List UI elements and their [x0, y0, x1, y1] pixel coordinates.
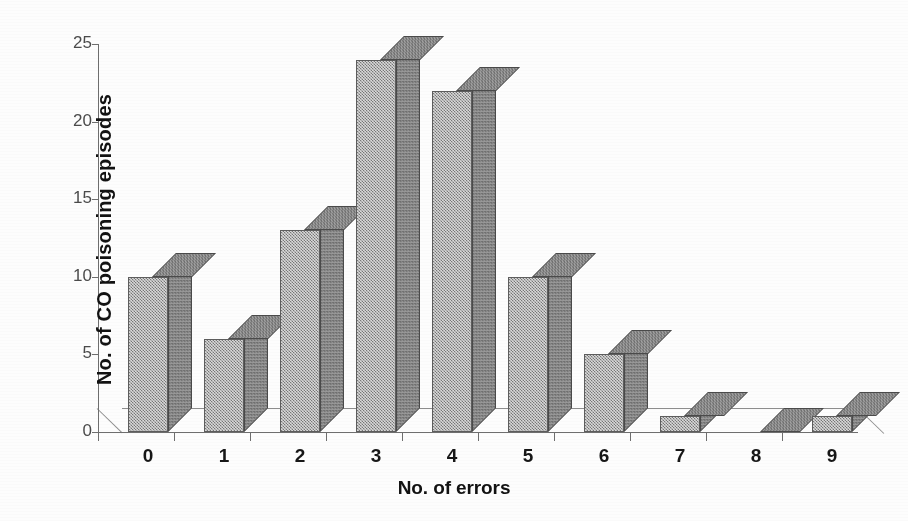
y-axis-tick-label: 15	[56, 188, 92, 208]
x-axis-tick-label: 1	[201, 445, 247, 467]
x-axis-tick-label: 3	[353, 445, 399, 467]
bar-side-face	[548, 253, 572, 432]
bar-front-face	[584, 354, 624, 432]
x-axis-tick	[478, 433, 479, 441]
x-axis-tick-label: 2	[277, 445, 323, 467]
bar	[812, 392, 852, 432]
bar-side-face	[320, 206, 344, 432]
bar	[204, 315, 244, 432]
bar-top-face	[152, 253, 216, 277]
bar-side-face	[168, 253, 192, 432]
x-axis-tick-label: 4	[429, 445, 475, 467]
bar-front-face	[812, 416, 852, 432]
bar	[432, 67, 472, 432]
bar	[128, 253, 168, 432]
bar-front-face	[660, 416, 700, 432]
y-axis-tick-label: 5	[56, 343, 92, 363]
bar-top-face	[456, 67, 520, 91]
x-axis-tick-label: 5	[505, 445, 551, 467]
x-axis-title: No. of errors	[0, 477, 908, 499]
bar-top-face	[532, 253, 596, 277]
x-axis-tick-label: 9	[809, 445, 855, 467]
x-axis-tick	[782, 433, 783, 441]
y-axis-tick-label: 20	[56, 111, 92, 131]
y-axis-title: No. of CO poisoning episodes	[93, 30, 116, 450]
bar-top-face	[608, 330, 672, 354]
bar	[356, 36, 396, 432]
x-axis-tick-label: 8	[733, 445, 779, 467]
y-axis-tick-label: 0	[56, 421, 92, 441]
bar-side-face	[472, 67, 496, 432]
y-axis-tick-label: 25	[56, 33, 92, 53]
plot-area: 0510152025 0123456789	[0, 0, 908, 521]
bar	[508, 253, 548, 432]
x-axis-tick	[554, 433, 555, 441]
bar	[660, 392, 700, 432]
x-axis-tick	[326, 433, 327, 441]
bar-front-face	[432, 91, 472, 432]
bar-top-face	[836, 392, 900, 416]
x-axis-tick-label: 6	[581, 445, 627, 467]
bar	[736, 408, 776, 432]
bar-front-face	[204, 339, 244, 432]
bar-side-face	[396, 36, 420, 432]
figure: 0510152025 0123456789 No. of CO poisonin…	[0, 0, 908, 521]
x-axis-tick	[630, 433, 631, 441]
bar-front-face	[356, 60, 396, 432]
x-axis-tick-label: 7	[657, 445, 703, 467]
x-axis-tick	[174, 433, 175, 441]
bar	[280, 206, 320, 432]
x-axis-tick	[250, 433, 251, 441]
bar-front-face	[508, 277, 548, 432]
x-axis-tick	[706, 433, 707, 441]
bar-top-face	[380, 36, 444, 60]
x-axis-tick-label: 0	[125, 445, 171, 467]
bar-front-face	[128, 277, 168, 432]
y-axis-tick-label: 10	[56, 266, 92, 286]
x-axis-tick	[402, 433, 403, 441]
bar	[584, 330, 624, 432]
bar-front-face	[280, 230, 320, 432]
